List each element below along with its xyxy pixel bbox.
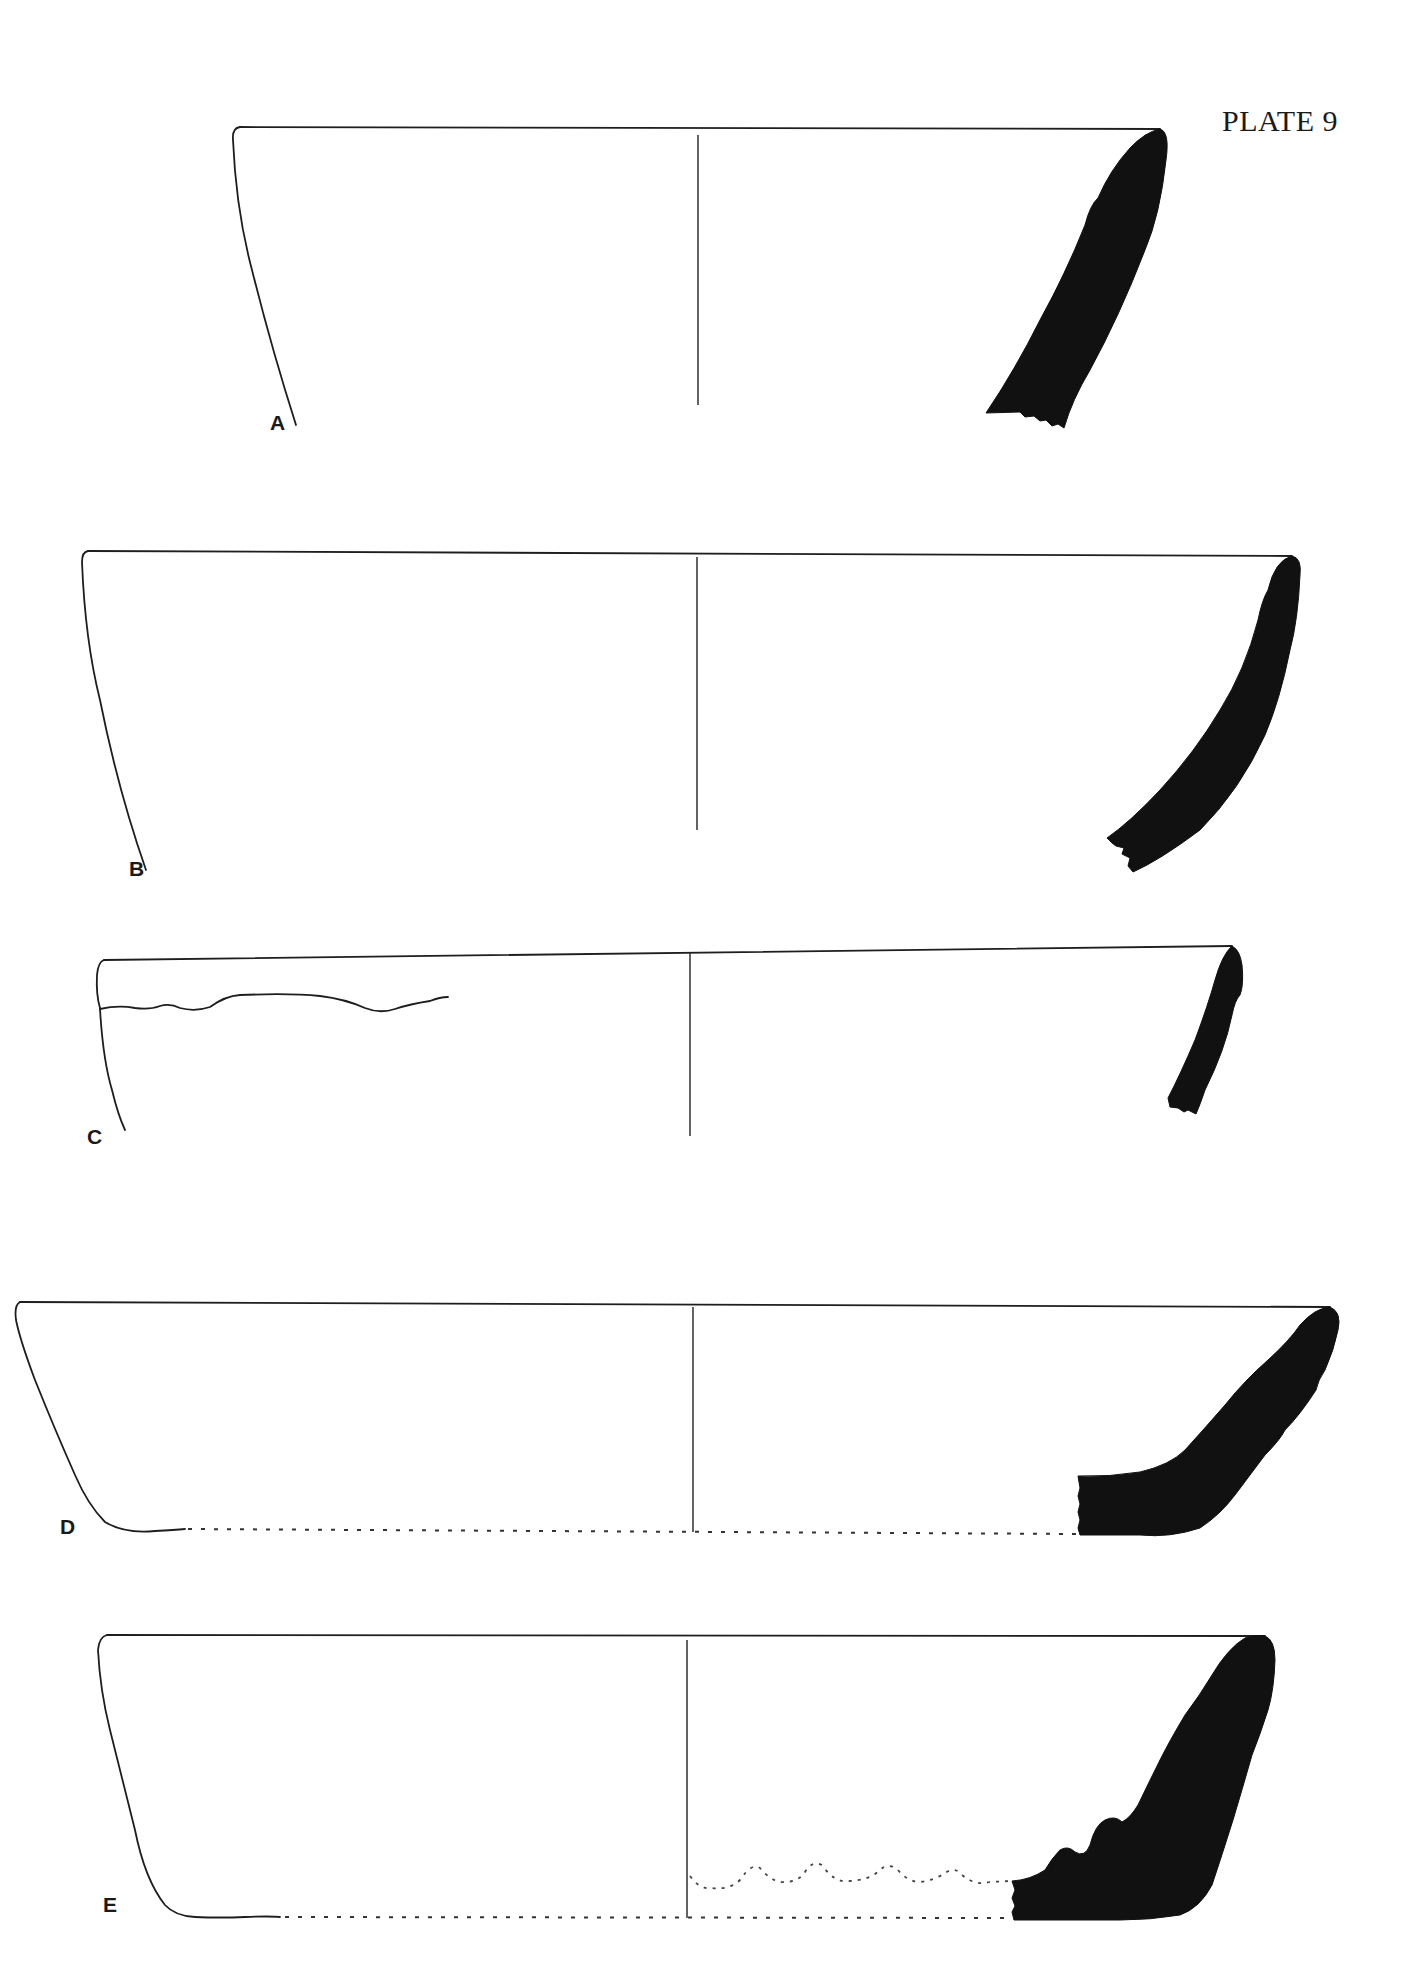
pottery-profile-drawings [0,0,1405,1977]
figure-e-drawing [98,1635,1275,1920]
figure-b-drawing [82,551,1300,872]
figure-label-d: D [60,1515,75,1539]
figure-label-c: C [87,1125,102,1149]
figure-label-b: B [129,857,144,881]
figure-a-drawing [233,127,1167,428]
figure-d-drawing [16,1302,1340,1536]
figure-label-a: A [270,411,285,435]
figure-label-e: E [103,1893,117,1917]
figure-c-drawing [97,946,1243,1136]
